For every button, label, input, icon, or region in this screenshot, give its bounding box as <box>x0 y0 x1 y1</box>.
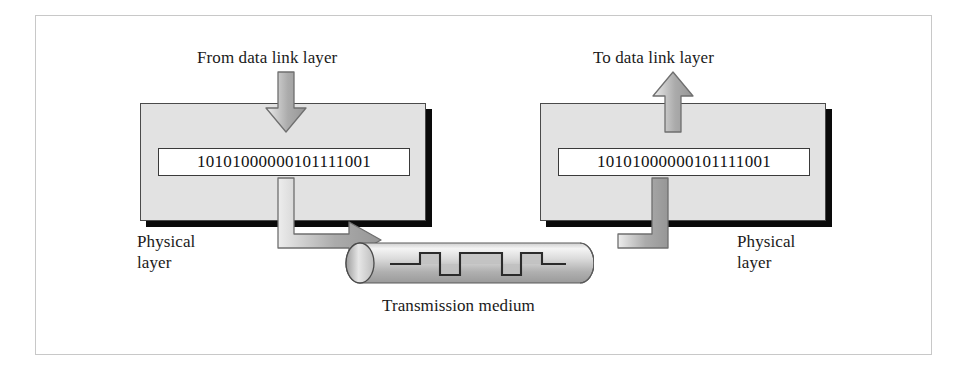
label-physical-layer-right-line1: Physical <box>737 232 795 252</box>
arrow-up-out-of-receiver <box>652 72 694 134</box>
arrow-elbow-medium-to-receiver <box>614 178 734 274</box>
label-physical-layer-left-line1: Physical <box>137 232 195 252</box>
label-to-data-link-layer: To data link layer <box>593 48 714 68</box>
sender-bits-value: 10101000000101111001 <box>197 152 371 172</box>
label-from-data-link-layer: From data link layer <box>197 48 337 68</box>
receiver-bitfield: 10101000000101111001 <box>558 148 810 176</box>
label-physical-layer-right-line2: layer <box>737 253 771 273</box>
label-transmission-medium: Transmission medium <box>382 296 535 316</box>
label-physical-layer-left-line2: layer <box>137 253 171 273</box>
arrow-down-into-sender <box>265 72 307 134</box>
figure-canvas: From data link layer To data link layer … <box>0 0 968 374</box>
sender-bitfield: 10101000000101111001 <box>158 148 410 176</box>
receiver-bits-value: 10101000000101111001 <box>597 152 771 172</box>
cylinder-left-cap <box>346 243 374 283</box>
transmission-medium-cylinder <box>344 240 594 286</box>
